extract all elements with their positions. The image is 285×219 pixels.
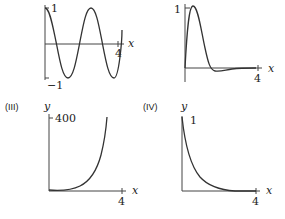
p3-ymax-label: 400 (55, 112, 76, 125)
p4-panel-label: (IV) (143, 102, 158, 112)
p3-panel-label: (III) (5, 102, 19, 112)
p2-ymax-label: 1 (174, 3, 181, 16)
p4-xmax-label: 4 (252, 195, 259, 208)
p3-xmax-label: 4 (118, 195, 125, 208)
panel-3: (III) y 400 4 x (5, 100, 139, 208)
p3-curve (49, 117, 107, 190)
p2-curve (185, 6, 256, 71)
p1-ymin-label: −1 (47, 79, 63, 92)
panel-2: 1 4 x (174, 3, 275, 85)
p1-x-label: x (128, 37, 135, 50)
p1-ymax-label: 1 (51, 2, 58, 15)
p1-curve (45, 8, 122, 78)
p2-xmax-label: 4 (254, 72, 261, 85)
panel-4: (IV) y 1 4 x (143, 100, 273, 208)
p3-x-label: x (132, 184, 139, 197)
p4-ymax-label: 1 (190, 114, 197, 127)
graph-grid: 1 −1 4 x 1 4 x (III) y 400 4 x (IV) y 1 (0, 0, 285, 219)
p4-y-label: y (180, 100, 188, 113)
p3-y-label: y (43, 100, 51, 113)
panel-1: 1 −1 4 x (45, 2, 135, 92)
p4-x-label: x (266, 184, 273, 197)
p4-curve (182, 117, 256, 191)
p2-x-label: x (268, 62, 275, 75)
